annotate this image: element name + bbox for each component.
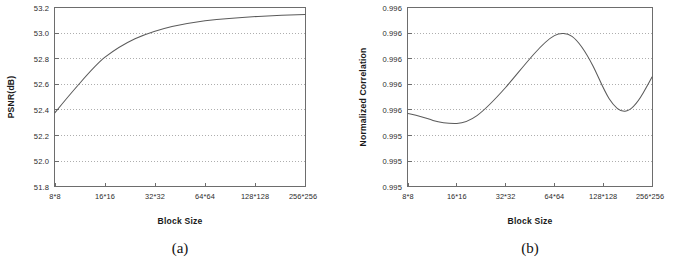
plot-frame-a — [55, 8, 306, 187]
y-tick-label: 52.2 — [34, 132, 49, 141]
y-tick-label: 52.8 — [34, 55, 49, 64]
chart-panel-a: 53.2 53.0 52.8 52.6 52.4 52.2 52.0 51.8 … — [0, 0, 338, 260]
y-tick-label: 0.996 — [382, 106, 402, 115]
x-tick-label: 32*32 — [496, 192, 516, 201]
x-tick-label: 16*16 — [447, 192, 467, 201]
y-tick-label: 53.0 — [34, 29, 49, 38]
x-tick-labels-b: 8*8 16*16 32*32 64*64 128*128 256*256 — [402, 192, 664, 201]
panel-caption-b: (b) — [521, 240, 539, 257]
x-tick-label: 8*8 — [49, 192, 60, 201]
y-tick-label: 0.995 — [382, 132, 402, 141]
psnr-line-chart: 53.2 53.0 52.8 52.6 52.4 52.2 52.0 51.8 … — [0, 0, 338, 260]
x-axis-title-b: Block Size — [508, 216, 553, 226]
y-tick-label: 0.996 — [382, 29, 402, 38]
y-tick-marks-b — [408, 8, 412, 187]
y-tick-label: 0.996 — [382, 4, 402, 13]
y-tick-label: 52.0 — [34, 157, 49, 166]
y-tick-label: 0.996 — [382, 80, 402, 89]
x-tick-label: 128*128 — [241, 192, 269, 201]
x-tick-label: 256*256 — [636, 192, 664, 201]
x-tick-label: 8*8 — [402, 192, 413, 201]
y-axis-title-a: PSNR(dB) — [6, 76, 16, 119]
plot-frame-b — [408, 8, 653, 187]
normalized-correlation-line-chart: 0.996 0.996 0.996 0.996 0.996 0.995 0.99… — [338, 0, 677, 260]
y-tick-label: 0.995 — [382, 157, 402, 166]
x-tick-label: 64*64 — [544, 192, 564, 201]
y-tick-labels-a: 53.2 53.0 52.8 52.6 52.4 52.2 52.0 51.8 — [34, 4, 49, 192]
y-tick-label: 51.8 — [34, 183, 49, 192]
chart-panel-b: 0.996 0.996 0.996 0.996 0.996 0.995 0.99… — [338, 0, 676, 260]
x-tick-label: 128*128 — [589, 192, 617, 201]
x-tick-marks-a — [55, 183, 305, 187]
y-tick-label: 0.995 — [382, 183, 402, 192]
x-tick-label: 256*256 — [289, 192, 317, 201]
y-axis-title-b: Normalized Correlation — [358, 48, 368, 147]
y-tick-labels-b: 0.996 0.996 0.996 0.996 0.996 0.995 0.99… — [382, 4, 402, 192]
panel-caption-a: (a) — [172, 240, 189, 257]
figure-container: 53.2 53.0 52.8 52.6 52.4 52.2 52.0 51.8 … — [0, 0, 677, 260]
y-tick-label: 0.996 — [382, 55, 402, 64]
gridlines-b — [408, 33, 652, 161]
x-tick-labels-a: 8*8 16*16 32*32 64*64 128*128 256*256 — [49, 192, 317, 201]
x-tick-marks-b — [408, 183, 652, 187]
x-tick-label: 64*64 — [195, 192, 215, 201]
y-tick-marks-a — [55, 8, 59, 187]
y-tick-label: 52.4 — [34, 106, 49, 115]
x-tick-label: 16*16 — [95, 192, 115, 201]
y-tick-label: 52.6 — [34, 80, 49, 89]
y-tick-label: 53.2 — [34, 4, 49, 13]
x-axis-title-a: Block Size — [158, 216, 203, 226]
x-tick-label: 32*32 — [145, 192, 165, 201]
data-series-psnr — [55, 15, 305, 113]
gridlines-a — [55, 33, 305, 161]
